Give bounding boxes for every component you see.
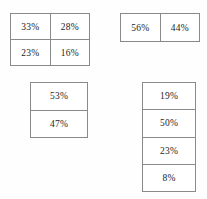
cell-bottom-right-r1c0: 50%	[143, 110, 196, 137]
cell-top-right-r0c1: 44%	[160, 14, 200, 42]
table-row: 53%	[31, 83, 88, 111]
table-row: 19%	[143, 83, 196, 110]
table-row: 23% 16%	[11, 40, 90, 66]
cell-top-left-r1c0: 23%	[11, 40, 51, 66]
cell-top-left-r1c1: 16%	[50, 40, 90, 66]
table-row: 50%	[143, 110, 196, 137]
cell-top-left-r0c1: 28%	[50, 14, 90, 40]
table-row: 33% 28%	[11, 14, 90, 40]
cell-top-left-r0c0: 33%	[11, 14, 51, 40]
percentage-table-bottom-right: 19% 50% 23% 8%	[142, 82, 196, 192]
cell-bottom-left-r0c0: 53%	[31, 83, 88, 111]
percentage-table-top-right: 56% 44%	[120, 13, 200, 42]
document-canvas: 33% 28% 23% 16% 56% 44% 53% 47%	[0, 0, 207, 199]
cell-bottom-left-r1c0: 47%	[31, 110, 88, 138]
cell-top-right-r0c0: 56%	[121, 14, 161, 42]
cell-bottom-right-r3c0: 8%	[143, 164, 196, 191]
table-row: 56% 44%	[121, 14, 200, 42]
percentage-table-top-left: 33% 28% 23% 16%	[10, 13, 90, 66]
cell-bottom-right-r2c0: 23%	[143, 137, 196, 164]
cell-bottom-right-r0c0: 19%	[143, 83, 196, 110]
percentage-table-bottom-left: 53% 47%	[30, 82, 88, 138]
table-row: 8%	[143, 164, 196, 191]
table-row: 47%	[31, 110, 88, 138]
table-row: 23%	[143, 137, 196, 164]
